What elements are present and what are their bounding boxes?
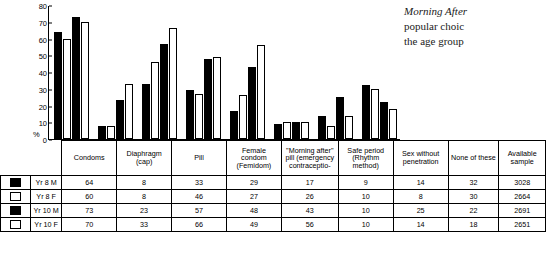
legend-swatch-cell bbox=[1, 190, 31, 204]
table-cell: 57 bbox=[172, 204, 227, 218]
legend-swatch-cell bbox=[1, 218, 31, 232]
y-axis-tick-label: 80 bbox=[39, 2, 47, 11]
bar bbox=[327, 126, 335, 139]
bar bbox=[116, 100, 124, 139]
bar bbox=[248, 67, 256, 139]
table-cell: 30 bbox=[448, 190, 499, 204]
table-cell: 8 bbox=[117, 190, 172, 204]
legend-swatch-icon bbox=[10, 178, 21, 187]
table-cell: 70 bbox=[62, 218, 117, 232]
table-row: Yr 8 M648332917914323028 bbox=[1, 176, 546, 190]
bar bbox=[151, 62, 159, 139]
bar bbox=[213, 57, 221, 139]
bar-group bbox=[137, 6, 181, 139]
bar bbox=[257, 45, 265, 139]
table-cell: 18 bbox=[448, 218, 499, 232]
bar bbox=[371, 89, 379, 139]
table-cell: 25 bbox=[393, 204, 448, 218]
bar bbox=[389, 109, 397, 139]
bar-group bbox=[269, 6, 313, 139]
y-axis-tick-label: 10 bbox=[39, 119, 47, 128]
table-cell: 60 bbox=[62, 190, 117, 204]
series-label: Yr 10 F bbox=[31, 218, 62, 232]
table-cell: 10 bbox=[338, 218, 393, 232]
plot-area: 01020304050607080 bbox=[48, 6, 400, 140]
series-label: Yr 8 M bbox=[31, 176, 62, 190]
bar-group bbox=[181, 6, 225, 139]
bar bbox=[380, 102, 388, 139]
table-cell: 27 bbox=[226, 190, 281, 204]
bar bbox=[274, 124, 282, 139]
table-cell: 2664 bbox=[499, 190, 546, 204]
table-column-header: None of these bbox=[448, 141, 499, 176]
data-table: CondomsDiaphragm (cap)PillFemale condom … bbox=[0, 140, 546, 232]
bar bbox=[160, 44, 168, 139]
table-cell: 73 bbox=[62, 204, 117, 218]
table-column-header: Safe period (Rhythm method) bbox=[338, 141, 393, 176]
y-axis-tick-label: 30 bbox=[39, 85, 47, 94]
bar bbox=[239, 95, 247, 139]
bar bbox=[54, 32, 62, 139]
table-column-header: "Morning after" pill (emergency contrace… bbox=[281, 141, 338, 176]
bar bbox=[142, 84, 150, 139]
table-row: Yr 8 F608462726108302664 bbox=[1, 190, 546, 204]
table-column-header: Diaphragm (cap) bbox=[117, 141, 172, 176]
table-cell: 23 bbox=[117, 204, 172, 218]
table-row: Yr 10 F70336649561014182651 bbox=[1, 218, 546, 232]
table-column-header: Condoms bbox=[62, 141, 117, 176]
bar bbox=[301, 122, 309, 139]
table-cell: 29 bbox=[226, 176, 281, 190]
side-note-line-3: the age group bbox=[404, 34, 546, 49]
table-cell: 10 bbox=[338, 204, 393, 218]
table-cell: 32 bbox=[448, 176, 499, 190]
table-cell: 8 bbox=[117, 176, 172, 190]
bar bbox=[107, 126, 115, 139]
bar bbox=[195, 94, 203, 139]
bar-group bbox=[49, 6, 93, 139]
table-cell: 14 bbox=[393, 218, 448, 232]
bar-group bbox=[225, 6, 269, 139]
table-cell: 9 bbox=[338, 176, 393, 190]
legend-swatch-icon bbox=[10, 220, 21, 229]
bar bbox=[318, 116, 326, 139]
bar bbox=[72, 17, 80, 139]
bar-group bbox=[357, 6, 401, 139]
y-axis-tick-label: 40 bbox=[39, 69, 47, 78]
table-cell: 14 bbox=[393, 176, 448, 190]
table-cell: 49 bbox=[226, 218, 281, 232]
table-cell: 33 bbox=[172, 176, 227, 190]
table-cell: 56 bbox=[281, 218, 338, 232]
table-cell: 48 bbox=[226, 204, 281, 218]
table-cell: 33 bbox=[117, 218, 172, 232]
table-cell: 17 bbox=[281, 176, 338, 190]
bar bbox=[169, 28, 177, 139]
table-header-key-spacer bbox=[1, 141, 31, 176]
side-note: Morning After popular choic the age grou… bbox=[404, 4, 546, 49]
y-axis-tick-label: 20 bbox=[39, 102, 47, 111]
data-table-body: CondomsDiaphragm (cap)PillFemale condom … bbox=[1, 141, 546, 232]
bar bbox=[81, 22, 89, 139]
table-cell: 22 bbox=[448, 204, 499, 218]
table-cell: 46 bbox=[172, 190, 227, 204]
table-cell: 10 bbox=[338, 190, 393, 204]
bar bbox=[186, 90, 194, 139]
bar bbox=[204, 59, 212, 139]
table-column-header: Sex without penetration bbox=[393, 141, 448, 176]
bar bbox=[63, 39, 71, 140]
table-column-header: Female condom (Femidom) bbox=[226, 141, 281, 176]
legend-swatch-icon bbox=[10, 192, 21, 201]
bar-group bbox=[313, 6, 357, 139]
bar bbox=[98, 126, 106, 139]
bar bbox=[336, 97, 344, 139]
series-label: Yr 8 F bbox=[31, 190, 62, 204]
legend-swatch-cell bbox=[1, 176, 31, 190]
legend-swatch-cell bbox=[1, 204, 31, 218]
y-axis-tick-label: 50 bbox=[39, 52, 47, 61]
bar bbox=[230, 111, 238, 139]
table-cell: 3028 bbox=[499, 176, 546, 190]
table-header-label-spacer bbox=[31, 141, 62, 176]
table-column-header: Pill bbox=[172, 141, 227, 176]
bar bbox=[345, 116, 353, 139]
series-label: Yr 10 M bbox=[31, 204, 62, 218]
table-row: Yr 10 M73235748431025222691 bbox=[1, 204, 546, 218]
